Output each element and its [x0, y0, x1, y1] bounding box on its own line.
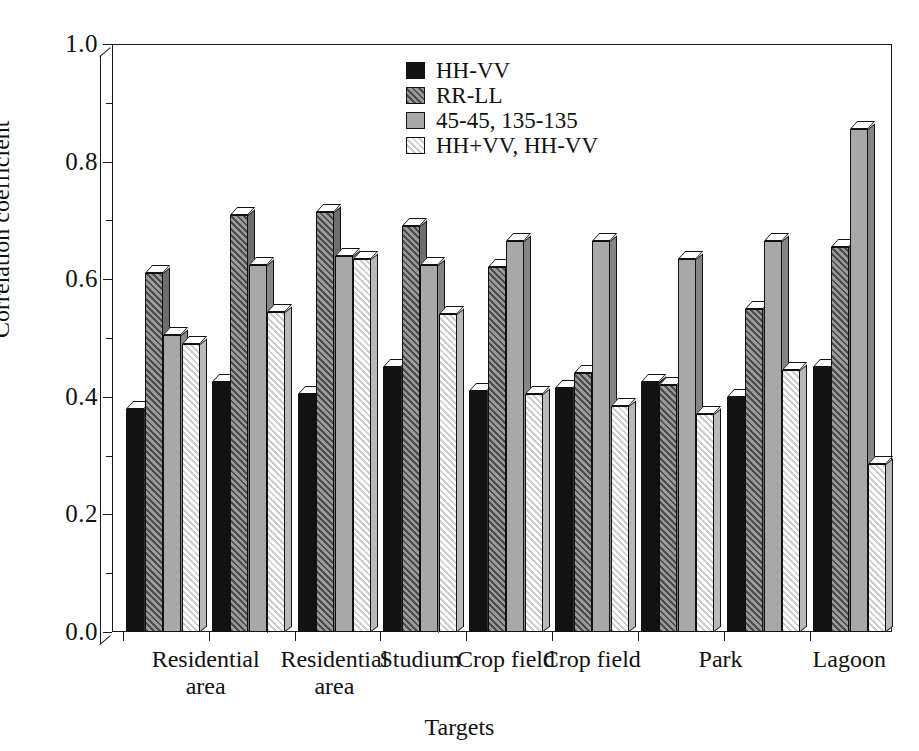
bar-face — [439, 314, 457, 632]
bar-face — [868, 464, 886, 632]
bar-face — [383, 367, 401, 632]
axis-3d-left-edge — [100, 56, 101, 644]
bar-face — [678, 259, 696, 632]
y-tick-major — [103, 514, 112, 515]
bar-hh-vv-hh-vv — [439, 314, 457, 632]
bar-face — [182, 344, 200, 632]
legend-label: RR-LL — [436, 83, 502, 108]
bar-hh-vv-hh-vv — [868, 464, 886, 632]
legend: HH-VVRR-LL45-45, 135-135HH+VV, HH-VV — [406, 58, 598, 158]
bar-hh-vv — [727, 397, 745, 632]
bar-face — [813, 367, 831, 632]
x-tick — [552, 632, 553, 641]
bar-face — [145, 273, 163, 632]
bar-side — [457, 309, 464, 632]
legend-swatch-hhvv-sum-icon — [406, 137, 425, 154]
bar-hh-vv-hh-vv — [611, 406, 629, 632]
x-tick-label: Lagoon — [759, 646, 919, 673]
bar-face — [488, 267, 506, 632]
bar-face — [469, 391, 487, 632]
y-tick-major — [103, 279, 112, 280]
bar-45-45-135-135 — [678, 259, 696, 632]
bar-45-45-135-135 — [850, 129, 868, 632]
bar-side — [285, 306, 292, 632]
bar-side — [800, 365, 807, 632]
bar-face — [745, 309, 763, 632]
legend-label: HH+VV, HH-VV — [436, 133, 598, 158]
bar-face — [641, 382, 659, 632]
legend-label: HH-VV — [436, 58, 510, 83]
bar-rr-ll — [574, 373, 592, 632]
legend-item: HH+VV, HH-VV — [406, 133, 598, 158]
bar-face — [764, 241, 782, 632]
bar-face — [316, 212, 334, 632]
bar-rr-ll — [145, 273, 163, 632]
bar-45-45-135-135 — [335, 256, 353, 632]
bar-rr-ll — [745, 309, 763, 632]
bar-face — [267, 312, 285, 632]
y-tick-label: 0.8 — [65, 148, 98, 176]
bar-hh-vv-hh-vv — [525, 394, 543, 632]
bar-hh-vv — [298, 394, 316, 632]
legend-item: RR-LL — [406, 83, 598, 108]
bar-45-45-135-135 — [506, 241, 524, 632]
y-tick-label: 0.0 — [65, 618, 98, 646]
bar-hh-vv — [813, 367, 831, 632]
bar-side — [543, 388, 550, 632]
bar-face — [592, 241, 610, 632]
bar-side — [714, 409, 721, 632]
bar-hh-vv-hh-vv — [696, 414, 714, 632]
y-tick-major — [103, 632, 112, 633]
bar-hh-vv — [641, 382, 659, 632]
bar-rr-ll — [659, 385, 677, 632]
bar-45-45-135-135 — [764, 241, 782, 632]
bar-face — [249, 265, 267, 633]
bar-face — [506, 241, 524, 632]
bar-side — [629, 400, 636, 632]
bar-hh-vv-hh-vv — [353, 259, 371, 632]
bar-face — [611, 406, 629, 632]
bar-45-45-135-135 — [420, 265, 438, 633]
bar-rr-ll — [230, 215, 248, 632]
y-tick-major — [103, 44, 112, 45]
bar-45-45-135-135 — [592, 241, 610, 632]
bar-45-45-135-135 — [163, 335, 181, 632]
bar-rr-ll — [488, 267, 506, 632]
bar-side — [200, 338, 207, 632]
bar-face — [163, 335, 181, 632]
y-tick-major — [103, 162, 112, 163]
bar-rr-ll — [831, 247, 849, 632]
bar-rr-ll — [316, 212, 334, 632]
bar-face — [555, 388, 573, 632]
bar-45-45-135-135 — [249, 265, 267, 633]
bar-face — [230, 215, 248, 632]
bar-hh-vv — [555, 388, 573, 632]
y-tick-label: 0.4 — [65, 383, 98, 411]
legend-swatch-rr-ll-icon — [406, 87, 425, 104]
axis-3d-top-edge — [99, 47, 110, 57]
legend-swatch-45-135-icon — [406, 112, 425, 129]
axis-3d-bottom-edge — [99, 635, 110, 645]
bar-face — [402, 226, 420, 632]
y-tick-label: 0.6 — [65, 265, 98, 293]
legend-item: 45-45, 135-135 — [406, 108, 598, 133]
bar-face — [831, 247, 849, 632]
bar-face — [574, 373, 592, 632]
bar-face — [212, 382, 230, 632]
bar-face — [525, 394, 543, 632]
bar-hh-vv-hh-vv — [782, 370, 800, 632]
x-tick — [380, 632, 381, 641]
bar-side — [886, 459, 893, 632]
bar-face — [335, 256, 353, 632]
bar-hh-vv — [469, 391, 487, 632]
x-tick — [295, 632, 296, 641]
chart-figure: 0.00.20.40.60.81.0 Correlation coefficie… — [0, 0, 919, 751]
bar-hh-vv — [212, 382, 230, 632]
x-tick — [466, 632, 467, 641]
y-tick-label: 1.0 — [65, 30, 98, 58]
x-axis-title: Targets — [0, 714, 919, 741]
bar-rr-ll — [402, 226, 420, 632]
legend-label: 45-45, 135-135 — [436, 108, 578, 133]
legend-swatch-hh-vv-icon — [406, 62, 425, 79]
bar-face — [353, 259, 371, 632]
